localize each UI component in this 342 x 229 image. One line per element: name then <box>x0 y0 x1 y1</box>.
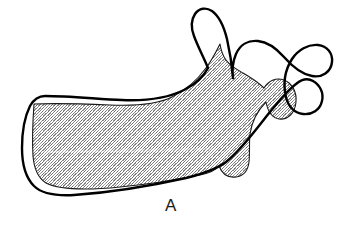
panel-label: A <box>0 196 342 216</box>
figure-panel: A <box>0 0 342 229</box>
mandible-illustration <box>0 0 342 229</box>
